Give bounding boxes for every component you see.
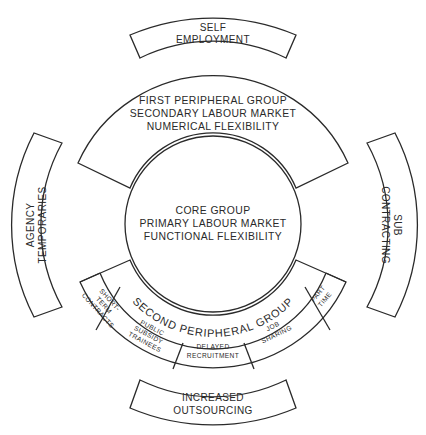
sub-contracting-line2: CONTRACTING bbox=[380, 186, 391, 264]
first-peripheral-line1: FIRST PERIPHERAL GROUP bbox=[139, 95, 287, 106]
core-group: CORE GROUP PRIMARY LABOUR MARKET FUNCTIO… bbox=[125, 136, 301, 312]
outer-segment-sub-contracting: SUB CONTRACTING bbox=[367, 133, 417, 317]
outer-segment-agency-temporaries: AGENCY TEMPORARIES bbox=[12, 133, 62, 317]
core-line1: CORE GROUP bbox=[175, 205, 250, 216]
flexible-firm-diagram: SELF EMPLOYMENT INCREASED OUTSOURCING AG… bbox=[0, 0, 426, 435]
svg-text:RECRUITMENT: RECRUITMENT bbox=[187, 352, 239, 359]
svg-text:DELAYED: DELAYED bbox=[196, 343, 229, 350]
self-employment-line2: EMPLOYMENT bbox=[176, 34, 250, 45]
outer-segment-self-employment: SELF EMPLOYMENT bbox=[130, 18, 296, 58]
increased-outsourcing-line1: INCREASED bbox=[182, 392, 244, 403]
sub-contracting-line1: SUB bbox=[392, 214, 403, 236]
first-peripheral-line2: SECONDARY LABOUR MARKET bbox=[130, 108, 297, 119]
core-line2: PRIMARY LABOUR MARKET bbox=[139, 218, 286, 229]
self-employment-line1: SELF bbox=[200, 22, 227, 33]
agency-temporaries-line1: AGENCY bbox=[25, 203, 36, 248]
agency-temporaries-line2: TEMPORARIES bbox=[37, 186, 48, 263]
core-line3: FUNCTIONAL FLEXIBILITY bbox=[144, 231, 282, 242]
first-peripheral-line3: NUMERICAL FLEXIBILITY bbox=[147, 121, 280, 132]
outer-segment-increased-outsourcing: INCREASED OUTSOURCING bbox=[130, 380, 296, 425]
increased-outsourcing-line2: OUTSOURCING bbox=[173, 405, 252, 416]
